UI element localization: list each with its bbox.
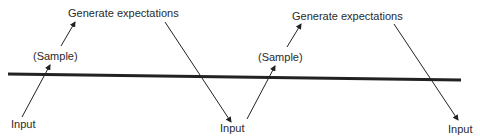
arrow-generate-to-input-1 bbox=[165, 22, 231, 122]
label-generate-expectations-1: Generate expectations bbox=[68, 7, 179, 19]
timeline-bar bbox=[8, 74, 461, 80]
arrow-input-to-sample-2 bbox=[247, 66, 275, 119]
label-sample-2: (Sample) bbox=[258, 51, 303, 63]
label-generate-expectations-2: Generate expectations bbox=[292, 10, 403, 22]
diagram-canvas bbox=[0, 0, 480, 140]
label-sample-1: (Sample) bbox=[33, 50, 78, 62]
label-input-3: Input bbox=[448, 123, 472, 135]
arrow-sample-to-generate-2 bbox=[287, 24, 301, 47]
arrow-sample-to-generate-1 bbox=[61, 22, 75, 46]
label-input-1: Input bbox=[11, 118, 35, 130]
label-input-2: Input bbox=[220, 122, 244, 134]
arrow-generate-to-input-2 bbox=[394, 24, 458, 120]
